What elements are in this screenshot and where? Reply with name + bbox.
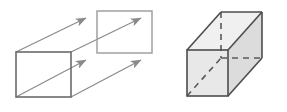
back-rectangle: [97, 11, 152, 53]
diagram-svg: [0, 0, 287, 112]
translation-arrow-group: [16, 18, 141, 97]
front-rectangle: [16, 52, 71, 97]
translation-arrow-bottom-left: [16, 60, 86, 97]
translation-arrow-bottom-right: [71, 60, 141, 97]
translation-arrow-top-left: [16, 18, 86, 52]
prism-front-face: [187, 50, 228, 96]
figure-canvas: Translation of a rectangle to form a rec…: [0, 0, 287, 112]
rectangular-prism: [187, 12, 262, 96]
translation-arrow-top-right: [71, 18, 141, 52]
translation-diagram: [16, 11, 152, 97]
